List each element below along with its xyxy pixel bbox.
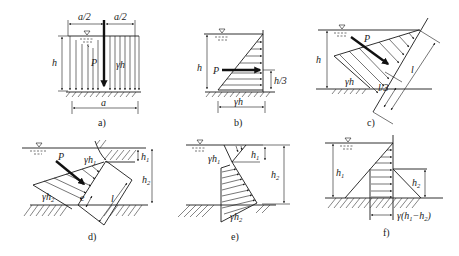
label-e-h1: h1 — [251, 149, 259, 161]
label-d-p1: γh1 — [84, 154, 96, 166]
label-e-h2: h2 — [271, 169, 280, 181]
label-f-h2: h2 — [412, 177, 421, 189]
label-a-half-left: a/2 — [78, 11, 91, 22]
label-b-force: P — [212, 65, 219, 76]
label-a-force: P — [90, 57, 97, 68]
water-surface-icon — [197, 140, 203, 144]
label-b-depth: h — [197, 62, 202, 73]
label-b-pressure: γh — [234, 96, 243, 107]
label-d-p2: γh2 — [42, 191, 55, 203]
label-c-pressure: γh — [345, 76, 354, 87]
label-e-p2: γh2 — [230, 211, 243, 223]
label-e-p1: γh1 — [208, 153, 220, 165]
panel-a: a/2 a/2 h P γh — [52, 11, 141, 129]
label-d-force: P — [57, 151, 64, 162]
label-f-h1: h1 — [336, 167, 344, 179]
water-surface-icon — [36, 143, 42, 147]
water-surface-icon — [339, 25, 345, 29]
panel-f: h1 h2 γ(h1−h2) f) — [325, 135, 443, 239]
label-c-depth: h — [316, 54, 321, 65]
label-d-h2: h2 — [142, 174, 151, 186]
caption-a: a) — [98, 117, 106, 129]
panel-b: P h h/3 γh b) — [197, 29, 287, 129]
water-surface-icon — [219, 29, 225, 33]
caption-e: e) — [231, 231, 239, 243]
hydrostatic-diagram: a/2 a/2 h P γh — [0, 0, 459, 256]
label-c-force: P — [363, 33, 370, 44]
panel-c: P h γh l/3 l c) — [316, 18, 440, 129]
water-surface-icon — [84, 31, 90, 35]
label-a-depth: h — [52, 57, 57, 68]
label-c-length: l — [411, 64, 414, 75]
panel-d: P γh1 γh2 e l h1 h2 d) — [22, 140, 152, 243]
label-a-half-right: a/2 — [114, 11, 127, 22]
label-a-pressure: γh — [116, 59, 125, 70]
panel-e: γh1 γh2 h1 h2 e) — [178, 140, 290, 243]
water-surface-icon — [345, 138, 351, 142]
label-d-h1: h1 — [141, 151, 149, 163]
label-f-diff: γ(h1−h2) — [397, 210, 432, 222]
caption-b: b) — [234, 117, 242, 129]
caption-f: f) — [383, 227, 390, 239]
caption-d: d) — [88, 231, 96, 243]
caption-c: c) — [367, 117, 375, 129]
label-a-width: a — [101, 97, 106, 108]
label-d-ecc: e — [80, 192, 85, 203]
label-b-arm: h/3 — [274, 75, 287, 86]
label-d-length: l — [111, 193, 114, 204]
label-c-arm: l/3 — [378, 82, 389, 93]
